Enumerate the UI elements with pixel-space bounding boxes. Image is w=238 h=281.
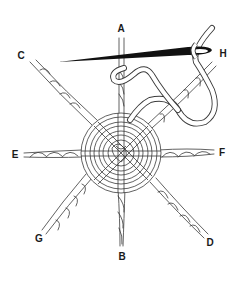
label-d: D [206, 238, 213, 248]
label-c: C [17, 51, 24, 61]
label-f: F [219, 148, 225, 158]
label-a: A [117, 24, 124, 34]
spoke-c [30, 60, 98, 125]
needle [58, 44, 212, 62]
spoke-f [158, 149, 214, 157]
woven-wheel [81, 113, 161, 193]
spoke-b [118, 188, 125, 246]
spoke-e [24, 150, 82, 158]
label-b: B [118, 252, 125, 262]
spider-web-stitch-diagram: A B C D E F G H [0, 0, 238, 281]
label-h: H [219, 49, 226, 59]
spoke-g [42, 174, 92, 234]
spoke-d [150, 178, 208, 238]
label-g: G [35, 234, 43, 244]
label-e: E [12, 150, 19, 160]
